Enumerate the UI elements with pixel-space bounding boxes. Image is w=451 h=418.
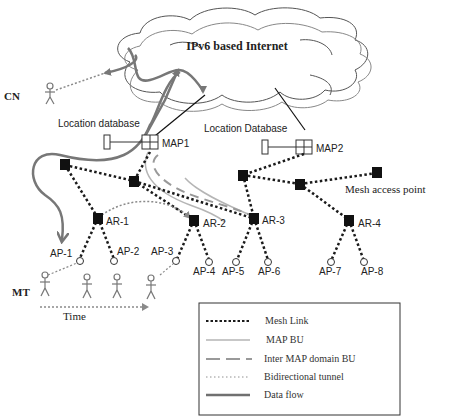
mt-person-icon-1 — [40, 272, 50, 296]
ap-7-label: AP-7 — [319, 266, 342, 277]
mesh-access-point-label: Mesh access point — [345, 183, 426, 195]
mesh-node-3 — [238, 170, 248, 181]
map-bu-line — [145, 152, 225, 222]
ar-3-node — [249, 213, 259, 224]
ar-1-label: AR-1 — [106, 216, 129, 227]
mt-label: MT — [12, 286, 30, 298]
cloud-label: IPv6 based Internet — [186, 39, 287, 53]
ar-1-node — [93, 213, 103, 224]
legend-map-bu-label: MAP BU — [266, 334, 304, 345]
ap-4-icon — [206, 259, 213, 266]
legend: Mesh Link MAP BU Inter MAP domain BU Bid… — [199, 303, 400, 415]
mt-person-icon-2 — [82, 274, 92, 298]
ap-3-icon — [173, 258, 180, 265]
ar-2-node — [189, 215, 199, 226]
ap-5-label: AP-5 — [222, 266, 245, 277]
ap-3-label: AP-3 — [151, 246, 174, 257]
ap-8-icon — [361, 259, 368, 266]
mesh-node-4 — [295, 179, 305, 190]
legend-inter-map-bu-label: Inter MAP domain BU — [264, 353, 356, 364]
mt-person-icon-4 — [146, 275, 156, 299]
access-points — [77, 258, 368, 266]
ap-1-label: AP-1 — [50, 248, 73, 259]
network-diagram: IPv6 based Internet CN Location database… — [0, 0, 451, 418]
mesh-node-1 — [60, 159, 70, 170]
cn-tunnel — [56, 73, 105, 90]
legend-data-flow-label: Data flow — [264, 389, 304, 400]
map2-router-icon[interactable] — [296, 140, 312, 154]
ap-8-label: AP-8 — [361, 266, 384, 277]
location-database-1-label: Location database — [58, 118, 140, 129]
legend-tunnel-label: Bidirectional tunnel — [264, 371, 344, 382]
ap-1-icon — [77, 258, 84, 265]
map2-label: MAP2 — [316, 143, 344, 154]
ap-4-label: AP-4 — [193, 266, 216, 277]
mesh-links — [65, 152, 377, 261]
cn-person-icon — [45, 83, 55, 104]
ap-6-label: AP-6 — [258, 266, 281, 277]
ap-6-icon — [265, 259, 272, 266]
legend-mesh-link-label: Mesh Link — [265, 315, 309, 326]
ap-5-icon — [233, 259, 240, 266]
map1-router-icon[interactable] — [142, 135, 158, 149]
mesh-node-2 — [129, 176, 139, 187]
time-label: Time — [63, 310, 86, 322]
cn-label: CN — [4, 90, 20, 102]
database-icon-2 — [262, 140, 296, 154]
ap-2-icon — [111, 258, 118, 265]
ar-4-node — [344, 215, 354, 226]
mt-ap3-link — [160, 264, 173, 275]
mt-person-icon-3 — [112, 274, 122, 298]
ar-2-label: AR-2 — [203, 218, 226, 229]
mesh-access-point-node — [372, 167, 382, 178]
ar-3-label: AR-3 — [262, 215, 285, 226]
mt-ap1-link — [48, 263, 77, 275]
inter-map-bu-line — [153, 155, 250, 215]
location-database-2-label: Location Database — [204, 123, 288, 134]
ap-2-label: AP-2 — [117, 246, 140, 257]
map1-label: MAP1 — [162, 138, 190, 149]
internet-cloud — [118, 8, 371, 111]
ar-4-label: AR-4 — [358, 218, 381, 229]
ap-7-icon — [328, 259, 335, 266]
